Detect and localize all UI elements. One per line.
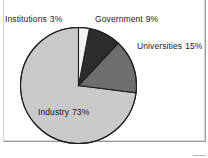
pie-label-institutions: Institutions3% <box>5 14 62 24</box>
pie-label-industry: Industry73% <box>38 107 89 117</box>
pie-label-institutions-percent: 3% <box>50 14 63 24</box>
pie-label-universities-percent: 15% <box>185 41 202 51</box>
pie-label-industry-name: Industry <box>38 107 69 117</box>
pie-label-government: Government9% <box>95 14 158 24</box>
pie-svg <box>20 27 137 144</box>
corner-tick-mark <box>193 155 206 156</box>
pie-chart: Institutions3% Government9% Universities… <box>0 0 208 158</box>
pie-label-universities: Universities15% <box>137 41 202 51</box>
pie-label-government-percent: 9% <box>146 14 159 24</box>
pie-label-universities-name: Universities <box>137 41 182 51</box>
pie-label-government-name: Government <box>95 14 143 24</box>
pie-label-industry-percent: 73% <box>72 107 89 117</box>
pie-label-institutions-name: Institutions <box>5 14 47 24</box>
